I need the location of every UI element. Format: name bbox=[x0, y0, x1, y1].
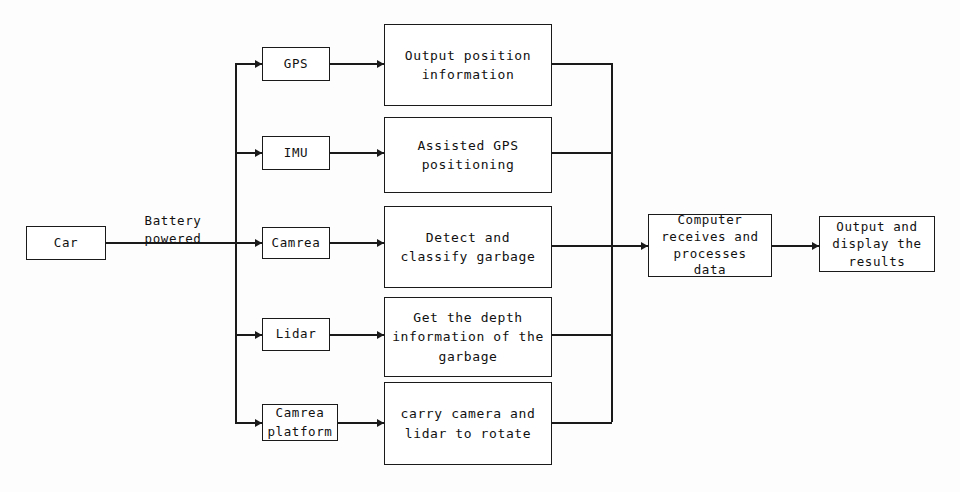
node-gps-label: GPS bbox=[284, 55, 308, 74]
node-camera-function-label: Detect and classify garbage bbox=[401, 228, 536, 267]
edge-camera-function-to-bus bbox=[552, 245, 612, 247]
node-imu-function-label: Assisted GPS positioning bbox=[417, 136, 518, 175]
node-platform-function: carry camera and lidar to rotate bbox=[384, 382, 552, 465]
node-gps: GPS bbox=[262, 47, 330, 81]
arrowhead-bus-to-lidar bbox=[255, 331, 262, 339]
arrowhead-gps-to-function bbox=[377, 60, 384, 68]
bus-data-collection bbox=[611, 63, 613, 422]
edge-lidar-to-function bbox=[330, 334, 384, 336]
arrowhead-camera-to-function bbox=[377, 239, 384, 247]
edge-gps-function-to-bus bbox=[552, 63, 612, 65]
node-lidar: Lidar bbox=[262, 318, 330, 351]
node-imu: IMU bbox=[262, 136, 330, 170]
arrowhead-camera-platform-to-function bbox=[377, 419, 384, 427]
node-lidar-function-label: Get the depth information of the garbage bbox=[392, 308, 544, 367]
node-camera-platform-label: Camrea platform bbox=[267, 404, 332, 442]
node-car: Car bbox=[26, 226, 106, 260]
node-gps-function-label: Output position information bbox=[405, 46, 531, 85]
arrowhead-bus-to-camera bbox=[255, 239, 262, 247]
arrowhead-lidar-to-function bbox=[377, 331, 384, 339]
arrowhead-bus-to-gps bbox=[255, 60, 262, 68]
node-lidar-function: Get the depth information of the garbage bbox=[384, 297, 552, 377]
arrowhead-imu-to-function bbox=[377, 149, 384, 157]
flowchart-canvas: Car Battery powered GPS IMU Camrea Lidar… bbox=[0, 0, 960, 492]
edge-lidar-function-to-bus bbox=[552, 334, 612, 336]
edge-platform-function-to-bus bbox=[552, 422, 612, 424]
node-computer-label: Computer receives and processes data bbox=[661, 212, 759, 280]
node-camera-function: Detect and classify garbage bbox=[384, 206, 552, 288]
arrowhead-bus-to-imu bbox=[255, 149, 262, 157]
node-imu-label: IMU bbox=[284, 144, 308, 163]
node-camera: Camrea bbox=[262, 227, 330, 259]
node-gps-function: Output position information bbox=[384, 24, 552, 106]
node-output-label: Output and display the results bbox=[832, 218, 921, 271]
edge-camera-to-function bbox=[330, 242, 384, 244]
node-output: Output and display the results bbox=[819, 216, 935, 272]
edge-imu-function-to-bus bbox=[552, 152, 612, 154]
edge-imu-to-function bbox=[330, 152, 384, 154]
edge-label-battery-powered: Battery powered bbox=[133, 212, 213, 248]
edge-gps-to-function bbox=[330, 63, 384, 65]
node-computer: Computer receives and processes data bbox=[648, 214, 772, 277]
arrowhead-bus-to-camera-platform bbox=[255, 419, 262, 427]
node-car-label: Car bbox=[54, 234, 78, 253]
arrowhead-computer-to-output bbox=[812, 242, 819, 250]
arrowhead-bus-to-computer bbox=[641, 242, 648, 250]
node-platform-function-label: carry camera and lidar to rotate bbox=[401, 404, 536, 443]
node-camera-label: Camrea bbox=[272, 234, 321, 253]
node-lidar-label: Lidar bbox=[276, 325, 317, 344]
node-camera-platform: Camrea platform bbox=[262, 404, 338, 441]
node-imu-function: Assisted GPS positioning bbox=[384, 117, 552, 193]
